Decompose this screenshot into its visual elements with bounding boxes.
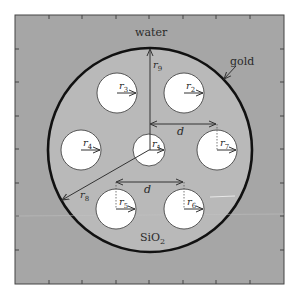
gold-label: gold xyxy=(230,55,254,68)
pitch-label-top: d xyxy=(177,125,184,138)
pitch-label-bottom: d xyxy=(144,183,151,196)
water-label: water xyxy=(135,26,168,39)
fiber-cross-section-diagram: water gold SiO2 d d r1 r2 r3 r4 r5 r6 r7… xyxy=(0,0,297,298)
